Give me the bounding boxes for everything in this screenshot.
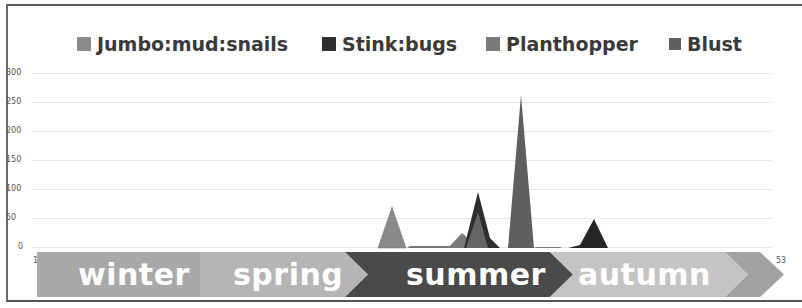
season-label-autumn: autumn — [578, 253, 711, 297]
season-label-spring: spring — [233, 253, 343, 297]
season-label-winter: winter — [78, 253, 190, 297]
x-tick-label-end: 53 — [776, 256, 786, 265]
season-label-summer: summer — [406, 253, 546, 297]
